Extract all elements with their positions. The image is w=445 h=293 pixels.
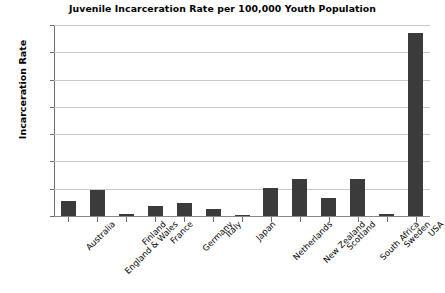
bar	[292, 179, 307, 216]
gridline	[54, 80, 430, 81]
bar	[206, 209, 221, 216]
bar	[119, 214, 134, 216]
y-tick-mark	[50, 216, 54, 217]
y-tick-mark	[50, 25, 54, 26]
y-tick-mark	[50, 107, 54, 108]
bar	[90, 190, 105, 216]
y-axis-title: Incarceration Rate	[17, 15, 28, 165]
y-tick-mark	[50, 134, 54, 135]
bar	[379, 214, 394, 216]
gridline	[54, 25, 430, 26]
y-tick-mark	[50, 52, 54, 53]
bar	[321, 198, 336, 216]
bar	[263, 188, 278, 216]
x-axis-labels: AustraliaEngland & WalesFinlandFranceGer…	[54, 219, 434, 293]
plot-area: 050100150200250300350	[54, 25, 430, 216]
bar	[235, 215, 250, 216]
bar	[350, 179, 365, 216]
gridline	[54, 189, 430, 190]
bar	[148, 206, 163, 216]
gridline	[54, 52, 430, 53]
bar-chart: Juvenile Incarceration Rate per 100,000 …	[0, 0, 445, 293]
gridline	[54, 107, 430, 108]
y-tick-mark	[50, 189, 54, 190]
x-tick-label: Australia	[84, 219, 117, 252]
bar	[408, 33, 423, 216]
x-tick-label: Japan	[254, 219, 278, 243]
gridline	[54, 134, 430, 135]
bar	[61, 201, 76, 216]
gridline	[54, 161, 430, 162]
y-tick-mark	[50, 80, 54, 81]
bar	[177, 203, 192, 216]
y-tick-mark	[50, 161, 54, 162]
chart-title: Juvenile Incarceration Rate per 100,000 …	[0, 3, 445, 14]
